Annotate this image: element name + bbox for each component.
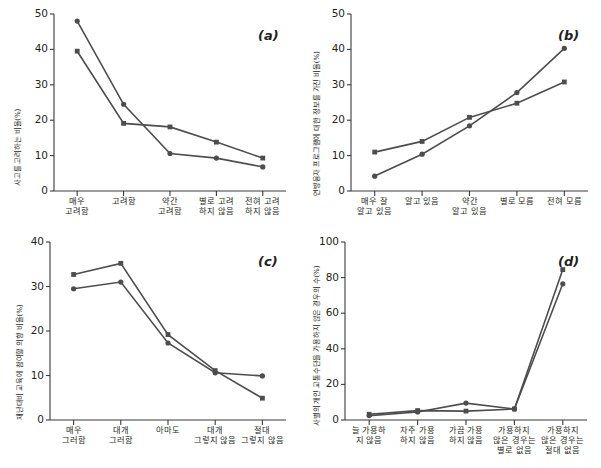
data-point-circle: [420, 152, 425, 157]
data-point-square: [415, 408, 420, 413]
data-point-square: [367, 412, 372, 417]
data-point-square: [118, 261, 123, 266]
data-point-circle: [165, 340, 170, 345]
data-point-square: [214, 140, 219, 145]
data-line-circle: [369, 284, 563, 416]
data-point-square: [75, 49, 80, 54]
data-point-square: [168, 125, 173, 130]
data-point-circle: [562, 46, 567, 51]
chart-panel-a: 01020304050매우 고려함고려함약간 고려함별로 고려 하지 않음전혀 …: [0, 0, 300, 234]
data-point-circle: [214, 155, 219, 160]
data-point-circle: [560, 281, 565, 286]
panel-letter-label: (d): [558, 254, 579, 269]
data-point-circle: [75, 18, 80, 23]
plot-area-c: [0, 234, 301, 468]
data-point-square: [71, 272, 76, 277]
data-point-square: [166, 332, 171, 337]
data-point-square: [213, 368, 218, 373]
data-point-circle: [372, 174, 377, 179]
data-point-square: [512, 407, 517, 412]
data-point-circle: [514, 90, 519, 95]
data-point-circle: [121, 102, 126, 107]
plot-area-d: [300, 234, 601, 468]
data-line-circle: [375, 48, 565, 176]
y-axis-title: 사고를 고려하는 비율(%): [12, 16, 22, 186]
panel-letter-label: (b): [558, 28, 579, 43]
data-point-square: [372, 150, 377, 155]
panel-letter-label: (c): [258, 254, 278, 269]
data-point-square: [562, 80, 567, 85]
data-point-square: [515, 101, 520, 106]
y-axis-title: 사별의 개인 교통수단을 가용하지 않은 경우의 수(%): [311, 236, 321, 426]
data-point-square: [121, 121, 126, 126]
y-axis-title: 연방융자 프로그램에 대한 정보를 가진 비율(%): [311, 10, 321, 196]
data-point-square: [260, 396, 265, 401]
plot-area-a: [0, 0, 301, 234]
data-point-circle: [118, 279, 123, 284]
data-point-circle: [463, 400, 468, 405]
y-axis-title: 재난대비 교육에 참여할 의향 비율(%): [14, 244, 24, 420]
data-point-circle: [167, 151, 172, 156]
data-point-circle: [260, 164, 265, 169]
data-point-square: [467, 115, 472, 120]
figure-panel-grid: 01020304050매우 고려함고려함약간 고려함별로 고려 하지 않음전혀 …: [0, 0, 601, 468]
data-point-square: [464, 409, 469, 414]
data-point-circle: [71, 286, 76, 291]
data-line-square: [74, 263, 263, 398]
data-point-circle: [467, 123, 472, 128]
chart-panel-c: 010203040매우 그러함대개 그러함아마도대개 그렇지 않음절대 그렇지 …: [0, 234, 300, 468]
data-point-circle: [260, 373, 265, 378]
plot-area-b: [300, 0, 601, 234]
data-line-square: [369, 270, 563, 415]
panel-letter-label: (a): [258, 28, 279, 43]
data-point-square: [260, 156, 265, 161]
data-line-square: [77, 51, 263, 158]
chart-panel-b: 01020304050매우 잘 알고 있음알고 있음약간 알고 있음별로 모름전…: [300, 0, 601, 234]
chart-panel-d: 020406080100늘 가용하 지 않음자주 가용 하지 않음가끔 가용 하…: [300, 234, 601, 468]
data-line-circle: [74, 282, 263, 376]
data-point-square: [420, 139, 425, 144]
